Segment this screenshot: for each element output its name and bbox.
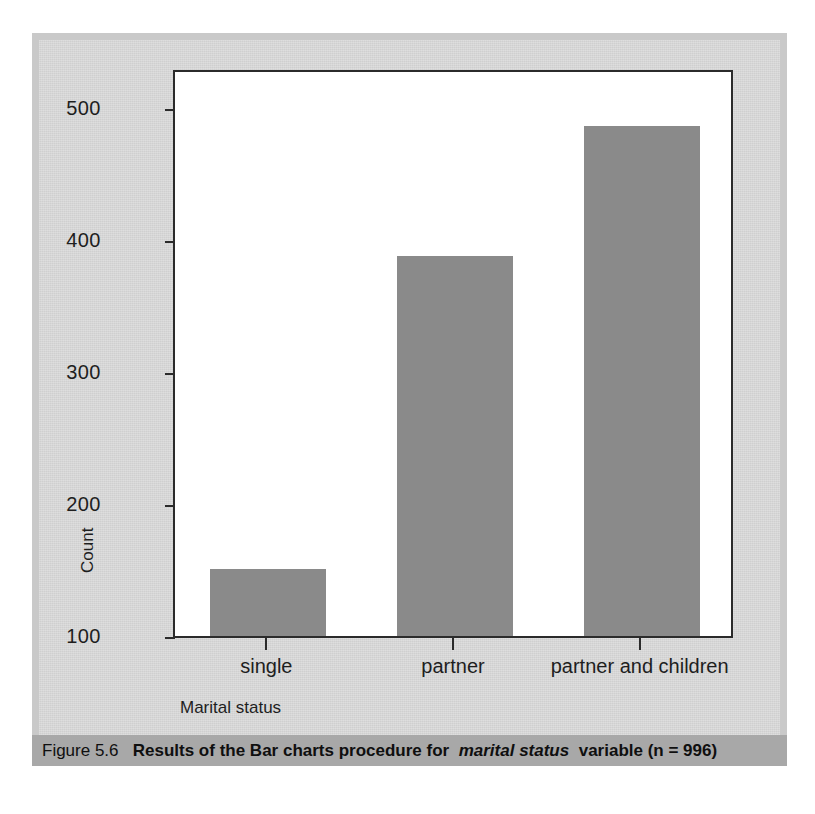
plot-area — [173, 70, 733, 638]
y-axis-tick-label: 400 — [31, 229, 101, 252]
x-axis-title: Marital status — [180, 698, 281, 718]
bar-series — [175, 72, 731, 636]
bar-chart: Count Marital status 100200300400500 sin… — [32, 33, 787, 733]
x-axis-tick-label: partner and children — [551, 655, 729, 678]
caption-title-part1: Results of the Bar charts procedure for — [133, 741, 449, 760]
caption-title-variable: marital status — [459, 741, 570, 760]
y-axis-tick-label: 500 — [31, 97, 101, 120]
y-axis-tick-label: 200 — [31, 493, 101, 516]
figure-block: Count Marital status 100200300400500 sin… — [32, 33, 787, 766]
caption-title-part2: variable (n = 996) — [579, 741, 717, 760]
x-axis-tick-label: partner — [421, 655, 484, 678]
figure-page: Count Marital status 100200300400500 sin… — [0, 0, 815, 814]
x-axis-tick — [452, 638, 454, 650]
x-axis-tick — [265, 638, 267, 650]
bar-partner[interactable] — [397, 256, 513, 636]
y-axis-title: Count — [78, 528, 98, 573]
bar-partner-and-children[interactable] — [584, 126, 700, 636]
x-axis-tick — [639, 638, 641, 650]
y-axis-tick-label: 100 — [31, 625, 101, 648]
x-axis-tick-label: single — [240, 655, 292, 678]
bar-single[interactable] — [210, 569, 326, 636]
figure-number: Figure 5.6 — [42, 741, 119, 760]
y-axis-tick-label: 300 — [31, 361, 101, 384]
figure-caption: Figure 5.6 Results of the Bar charts pro… — [42, 741, 717, 761]
figure-caption-band: Figure 5.6 Results of the Bar charts pro… — [32, 735, 787, 766]
